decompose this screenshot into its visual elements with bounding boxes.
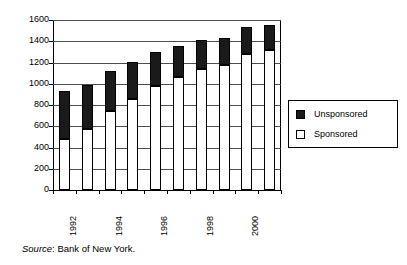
bar-segment-sponsored <box>264 50 275 190</box>
bar-column <box>173 20 184 190</box>
bar-segment-sponsored <box>196 69 207 190</box>
bar-segment-sponsored <box>150 86 161 190</box>
bar-column <box>196 20 207 190</box>
bar-segment-unsponsored <box>127 62 138 99</box>
bar-column <box>241 20 252 190</box>
x-axis-tick-label: 1998 <box>206 216 215 236</box>
legend-item-sponsored: Sponsored <box>296 128 358 140</box>
y-axis-tick <box>49 41 53 42</box>
y-axis-tick <box>49 126 53 127</box>
y-axis-tick <box>49 105 53 106</box>
legend-swatch-unsponsored-icon <box>296 110 305 119</box>
bar-segment-unsponsored <box>105 71 116 111</box>
legend-label-unsponsored: Unsponsored <box>314 110 368 119</box>
bar-segment-sponsored <box>219 65 230 190</box>
x-axis-tick <box>144 190 145 194</box>
x-axis-tick-label: 1994 <box>115 216 124 236</box>
bar-segment-unsponsored <box>82 85 93 130</box>
x-axis-tick <box>53 190 54 194</box>
y-axis-tick-label: 1200 <box>15 58 49 67</box>
x-axis-tick <box>99 190 100 194</box>
bar-segment-sponsored <box>127 99 138 190</box>
bar-segment-unsponsored <box>150 52 161 86</box>
bar-column <box>127 20 138 190</box>
y-axis-tick <box>49 190 53 191</box>
y-axis-tick-label: 1600 <box>15 15 49 24</box>
y-axis-tick-label: 200 <box>15 164 49 173</box>
x-axis-tick <box>213 190 214 194</box>
x-axis-tick <box>235 190 236 194</box>
legend-item-unsponsored: Unsponsored <box>296 108 368 120</box>
y-axis-tick-label: 600 <box>15 121 49 130</box>
x-axis-tick <box>76 190 77 194</box>
x-axis-tick <box>258 190 259 194</box>
x-axis-tick <box>281 190 282 194</box>
bar-group <box>53 20 281 190</box>
figure-stacked-bar-chart: 02004006008001000120014001600 1992199419… <box>0 0 407 265</box>
y-axis-tick <box>49 169 53 170</box>
y-axis-tick-label: 1000 <box>15 79 49 88</box>
bar-segment-sponsored <box>82 129 93 190</box>
bar-column <box>264 20 275 190</box>
y-axis-tick-label: 800 <box>15 100 49 109</box>
y-axis-tick-label: 0 <box>15 185 49 194</box>
y-axis-tick-label: 1400 <box>15 36 49 45</box>
source-caption-text: Bank of New York. <box>57 243 135 254</box>
bar-segment-sponsored <box>59 139 70 190</box>
y-axis-tick <box>49 84 53 85</box>
source-caption-prefix: Source <box>22 243 52 254</box>
x-axis-tick-label: 1992 <box>69 216 78 236</box>
y-axis-tick <box>49 148 53 149</box>
bar-column <box>82 20 93 190</box>
x-axis-tick <box>190 190 191 194</box>
x-axis-tick-label: 2000 <box>251 216 260 236</box>
bar-segment-sponsored <box>105 111 116 190</box>
y-axis-tick <box>49 63 53 64</box>
x-axis-ticks <box>53 190 281 195</box>
y-axis-tick <box>49 20 53 21</box>
source-caption: Source: Bank of New York. <box>22 243 135 254</box>
bar-segment-unsponsored <box>196 40 207 70</box>
bar-segment-unsponsored <box>59 91 70 139</box>
bar-segment-sponsored <box>241 54 252 190</box>
bar-segment-unsponsored <box>219 38 230 66</box>
bar-column <box>59 20 70 190</box>
y-axis-labels: 02004006008001000120014001600 <box>9 0 49 265</box>
x-axis-tick <box>121 190 122 194</box>
x-axis-tick <box>167 190 168 194</box>
bar-segment-unsponsored <box>264 25 275 51</box>
legend: Unsponsored Sponsored <box>288 100 398 148</box>
bar-segment-unsponsored <box>241 27 252 54</box>
bar-segment-unsponsored <box>173 46 184 78</box>
legend-label-sponsored: Sponsored <box>314 130 358 139</box>
bar-column <box>219 20 230 190</box>
x-axis-tick-label: 1996 <box>160 216 169 236</box>
bar-segment-sponsored <box>173 77 184 190</box>
legend-swatch-sponsored-icon <box>296 130 305 139</box>
y-axis-tick-label: 400 <box>15 143 49 152</box>
bar-column <box>150 20 161 190</box>
x-axis-labels: 19921994199619982000 <box>53 196 281 238</box>
bar-column <box>105 20 116 190</box>
